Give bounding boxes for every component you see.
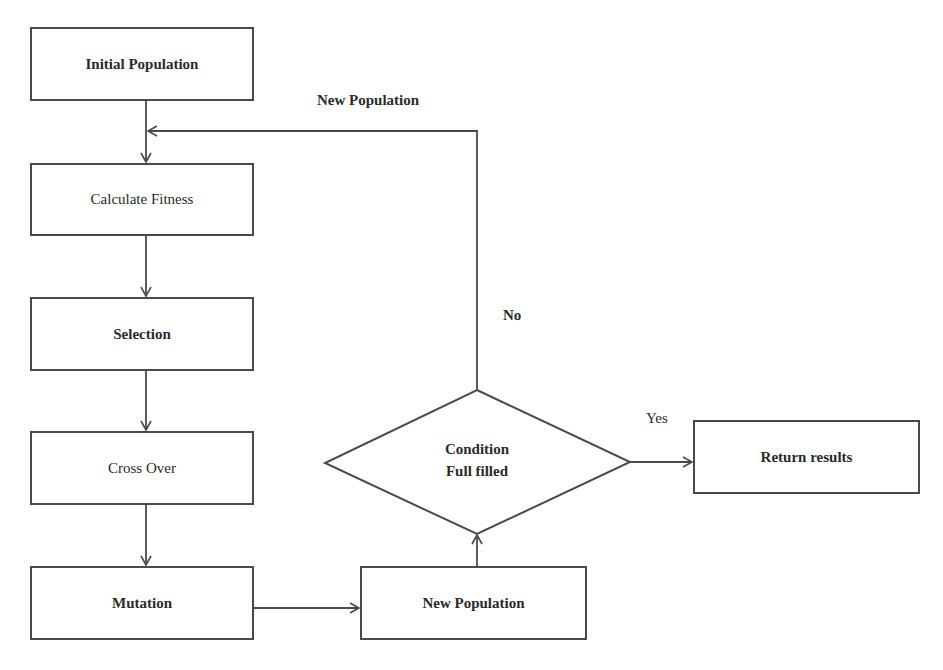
crossover-label: Cross Over [108, 460, 176, 477]
selection-label: Selection [113, 326, 171, 343]
new-population-box: New Population [360, 566, 587, 640]
crossover-box: Cross Over [30, 431, 254, 505]
selection-box: Selection [30, 297, 254, 371]
yes-edge-label: Yes [646, 410, 668, 427]
initial-population-box: Initial Population [30, 27, 254, 101]
return-results-box: Return results [693, 420, 920, 494]
new-population-label: New Population [422, 595, 524, 612]
mutation-label: Mutation [112, 595, 172, 612]
loop-edge-label: New Population [317, 92, 419, 109]
calculate-fitness-label: Calculate Fitness [91, 191, 194, 208]
initial-population-label: Initial Population [86, 56, 199, 73]
condition-label-line2: Full filled [377, 460, 577, 482]
mutation-box: Mutation [30, 566, 254, 640]
return-results-label: Return results [761, 449, 853, 466]
no-edge-label: No [503, 307, 521, 324]
condition-label-line1: Condition [377, 438, 577, 460]
calculate-fitness-box: Calculate Fitness [30, 163, 254, 236]
condition-text: Condition Full filled [377, 438, 577, 482]
